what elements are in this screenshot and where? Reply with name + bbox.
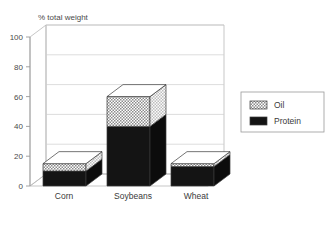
bar-group-wheat xyxy=(171,152,230,186)
legend: Oil Protein xyxy=(241,92,324,132)
x-label-wheat: Wheat xyxy=(184,191,209,201)
legend-swatch-protein xyxy=(250,117,267,125)
y-tick-label-60: 60 xyxy=(14,93,23,102)
x-axis-labels: Corn Soybeans Wheat xyxy=(55,191,209,201)
y-axis: 100 80 60 40 20 0 xyxy=(10,33,30,191)
bar-group-soybeans xyxy=(107,85,166,186)
bar-soybeans-protein-front xyxy=(107,126,150,186)
stacked-bar-chart: 100 80 60 40 20 0 % total weight xyxy=(0,0,329,228)
bar-group-corn xyxy=(43,152,102,186)
bar-corn-oil-front xyxy=(43,164,86,171)
legend-label-oil: Oil xyxy=(274,100,285,110)
bar-soybeans-oil-front xyxy=(107,97,150,127)
y-tick-label-80: 80 xyxy=(14,63,23,72)
bar-wheat-protein-front xyxy=(171,167,214,186)
bar-wheat-oil-front xyxy=(171,164,214,167)
y-tick-label-20: 20 xyxy=(14,152,23,161)
bar-corn-protein-front xyxy=(43,171,86,186)
legend-swatch-oil xyxy=(250,101,267,109)
axis-title: % total weight xyxy=(38,13,89,22)
y-tick-label-0: 0 xyxy=(19,182,24,191)
plot-left-wall xyxy=(30,25,46,186)
legend-box xyxy=(241,92,324,132)
y-tick-label-40: 40 xyxy=(14,122,23,131)
x-label-soybeans: Soybeans xyxy=(114,191,152,201)
chart-figure: 100 80 60 40 20 0 % total weight xyxy=(0,0,329,228)
bar-soybeans-protein-side xyxy=(150,114,166,186)
y-tick-label-100: 100 xyxy=(10,33,24,42)
legend-label-protein: Protein xyxy=(274,116,301,126)
x-label-corn: Corn xyxy=(55,191,74,201)
